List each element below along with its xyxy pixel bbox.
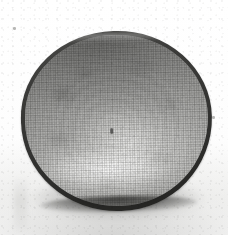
speck-top-left-icon xyxy=(13,27,16,30)
bowl-rim xyxy=(19,29,214,214)
bowl xyxy=(21,31,212,211)
interior-wall-vignette xyxy=(23,32,210,207)
centre-mark xyxy=(110,128,113,134)
bowl-interior xyxy=(23,32,210,207)
bowl-photograph: Overhead photograph of a shallow round c… xyxy=(0,0,228,235)
speck-right-icon xyxy=(212,116,215,119)
